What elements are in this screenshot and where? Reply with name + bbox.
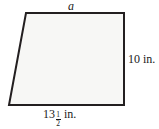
- bottom-unit-label: in.: [64, 108, 76, 120]
- mixed-number: 13 1 2: [43, 108, 62, 128]
- right-side-label: 10 in.: [128, 53, 155, 65]
- trapezoid-polygon: [9, 13, 124, 105]
- top-side-label: a: [68, 0, 74, 12]
- whole-number-part: 13: [43, 108, 55, 120]
- fraction: 1 2: [56, 111, 61, 127]
- trapezoid-figure: a 10 in. 13 1 2 in.: [0, 0, 159, 129]
- fraction-denominator: 2: [56, 120, 61, 128]
- fraction-numerator: 1: [56, 111, 61, 119]
- bottom-side-label: 13 1 2 in.: [43, 108, 76, 128]
